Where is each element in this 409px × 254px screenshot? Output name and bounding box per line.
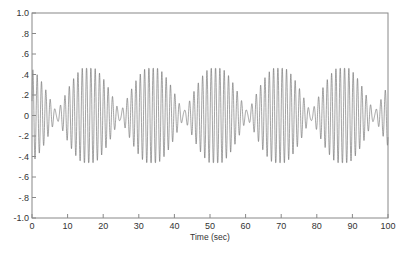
- x-tick-label: 80: [312, 221, 322, 231]
- y-tick-label: 0: [24, 111, 29, 121]
- y-tick-label: -.4: [18, 152, 29, 162]
- signal-series: [32, 68, 388, 162]
- x-tick-label: 60: [241, 221, 251, 231]
- x-tick-label: 30: [134, 221, 144, 231]
- y-tick-label: 1.0: [16, 8, 29, 18]
- x-tick-label: 10: [63, 221, 73, 231]
- y-tick-label: -.2: [18, 131, 29, 141]
- x-tick-label: 70: [276, 221, 286, 231]
- x-tick-label: 100: [380, 221, 395, 231]
- x-tick-label: 50: [205, 221, 215, 231]
- y-tick-label: -.8: [18, 193, 29, 203]
- signal-line: [32, 68, 388, 162]
- x-tick-label: 20: [98, 221, 108, 231]
- x-axis: 0102030405060708090100: [29, 214, 395, 231]
- x-tick-label: 40: [169, 221, 179, 231]
- x-tick-label: 0: [29, 221, 34, 231]
- x-tick-label: 90: [347, 221, 357, 231]
- y-tick-label: .8: [21, 29, 29, 39]
- y-tick-label: .4: [21, 70, 29, 80]
- y-tick-label: -.6: [18, 172, 29, 182]
- y-tick-label: -1.0: [13, 213, 29, 223]
- y-tick-label: .6: [21, 49, 29, 59]
- y-axis: 1.0.8.6.4.20-.2-.4-.6-.8-1.0: [13, 8, 36, 223]
- chart: 1.0.8.6.4.20-.2-.4-.6-.8-1.0 01020304050…: [0, 0, 409, 254]
- x-axis-label: Time (sec): [190, 232, 230, 242]
- y-tick-label: .2: [21, 90, 29, 100]
